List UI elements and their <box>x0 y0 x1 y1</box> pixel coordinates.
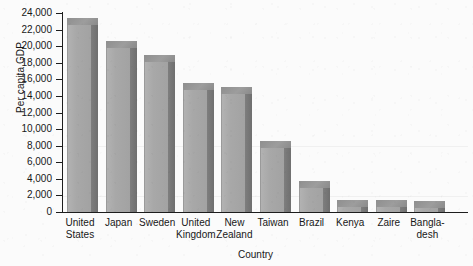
x-axis-tick-label-line1: Zaire <box>377 217 400 228</box>
y-axis-tick-label: 16,000 <box>0 73 52 84</box>
bar-top-face <box>260 141 291 148</box>
bar-top-face <box>67 18 98 25</box>
bar-front-face <box>183 90 208 212</box>
bar-front-face <box>67 25 92 212</box>
bar-top-face <box>376 200 407 207</box>
bar-side-face <box>207 90 214 212</box>
x-axis-tick-label-line1: Taiwan <box>257 217 288 228</box>
x-axis-tick-label-line1: Brazil <box>299 217 324 228</box>
bar-side-face <box>361 207 368 212</box>
bar <box>337 200 368 212</box>
y-axis-tick-label: 18,000 <box>0 57 52 68</box>
bar-front-face <box>299 188 324 212</box>
bar-side-face <box>130 48 137 212</box>
bar-side-face <box>438 208 445 212</box>
bar <box>144 55 175 212</box>
bar-front-face <box>144 62 169 212</box>
bar <box>67 18 98 212</box>
y-axis-tick <box>56 212 62 213</box>
x-axis-tick-label-line1: New <box>224 217 244 228</box>
bar-front-face <box>414 208 439 212</box>
x-axis-tick-label-line1: United <box>181 217 210 228</box>
bar-side-face <box>323 188 330 212</box>
y-axis-tick-label: 22,000 <box>0 24 52 35</box>
bar <box>106 41 137 212</box>
y-axis-tick-label: 8,000 <box>0 140 52 151</box>
y-axis-tick-label: 12,000 <box>0 107 52 118</box>
x-axis-tick-label: Bangla-desh <box>401 217 453 240</box>
bar-chart: Per capita GDP 24,00022,00020,00018,0001… <box>0 0 473 266</box>
y-axis-tick-label: 0 <box>0 206 52 217</box>
x-axis-title: Country <box>0 249 473 260</box>
bar <box>414 201 445 212</box>
x-axis-tick-label-line1: Bangla- <box>410 217 444 228</box>
bar-top-face <box>299 181 330 188</box>
bar-top-face <box>337 200 368 207</box>
x-axis-tick-label-line1: Japan <box>105 217 132 228</box>
y-axis-tick-label: 24,000 <box>0 7 52 18</box>
x-axis-tick-label-line2: States <box>54 229 106 241</box>
x-axis-tick-label-line1: Kenya <box>336 217 364 228</box>
bar-side-face <box>400 207 407 212</box>
bar-top-face <box>414 201 445 208</box>
x-axis-tick-label-line2: desh <box>401 229 453 241</box>
bar-side-face <box>91 25 98 212</box>
bar-top-face <box>106 41 137 48</box>
y-axis-tick-label: 6,000 <box>0 156 52 167</box>
bar-front-face <box>260 148 285 212</box>
bar-front-face <box>376 207 401 212</box>
x-axis-title-text: Country <box>238 249 273 260</box>
bar-front-face <box>106 48 131 212</box>
bar-top-face <box>221 87 252 94</box>
plot-area <box>62 13 468 212</box>
bar-top-face <box>144 55 175 62</box>
y-axis-tick-label: 4,000 <box>0 173 52 184</box>
bar-side-face <box>245 94 252 212</box>
bar <box>260 141 291 212</box>
y-axis-tick-label: 10,000 <box>0 123 52 134</box>
bar-front-face <box>337 207 362 212</box>
bar-side-face <box>284 148 291 212</box>
x-axis-line <box>62 212 468 213</box>
y-axis-tick-label: 20,000 <box>0 40 52 51</box>
y-axis-tick-label: 14,000 <box>0 90 52 101</box>
x-axis-tick-label-line2: Zealand <box>208 229 260 241</box>
bar <box>376 200 407 212</box>
y-axis-tick-label: 2,000 <box>0 189 52 200</box>
bar-side-face <box>168 62 175 212</box>
x-axis-tick-label-line1: United <box>66 217 95 228</box>
bar-front-face <box>221 94 246 212</box>
bar <box>221 87 252 212</box>
bar <box>183 83 214 212</box>
bar <box>299 181 330 212</box>
bar-top-face <box>183 83 214 90</box>
